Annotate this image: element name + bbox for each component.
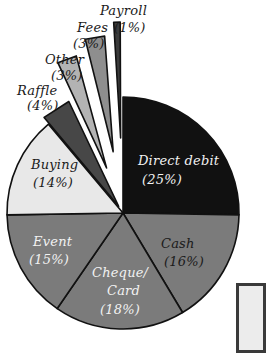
label-fees: Fees [77, 21, 108, 35]
label-event-pct: (15%) [29, 253, 69, 267]
label-direct-debit-pct: (25%) [142, 173, 182, 187]
label-payroll-pct: (1%) [114, 21, 146, 35]
label-cash-pct: (16%) [164, 255, 204, 269]
label-raffle: Raffle [17, 84, 58, 98]
label-cash: Cash [161, 237, 195, 251]
label-event: Event [33, 235, 72, 249]
label-direct-debit: Direct debit [138, 154, 219, 168]
label-cheque-card-line2: Card [107, 284, 140, 298]
label-raffle-pct: (4%) [27, 99, 59, 113]
label-buying-pct: (14%) [33, 176, 73, 190]
pie-slice-payroll [114, 22, 121, 138]
label-cheque-card-pct: (18%) [100, 303, 140, 317]
label-other: Other [45, 53, 84, 67]
cropped-panel-frame [236, 283, 266, 353]
label-cheque-card-line1: Cheque/ [92, 266, 148, 280]
label-buying: Buying [31, 158, 78, 172]
label-fees-pct: (3%) [73, 37, 105, 51]
label-payroll: Payroll [100, 4, 147, 18]
label-other-pct: (3%) [51, 69, 83, 83]
pie-slice-fees [85, 36, 113, 152]
